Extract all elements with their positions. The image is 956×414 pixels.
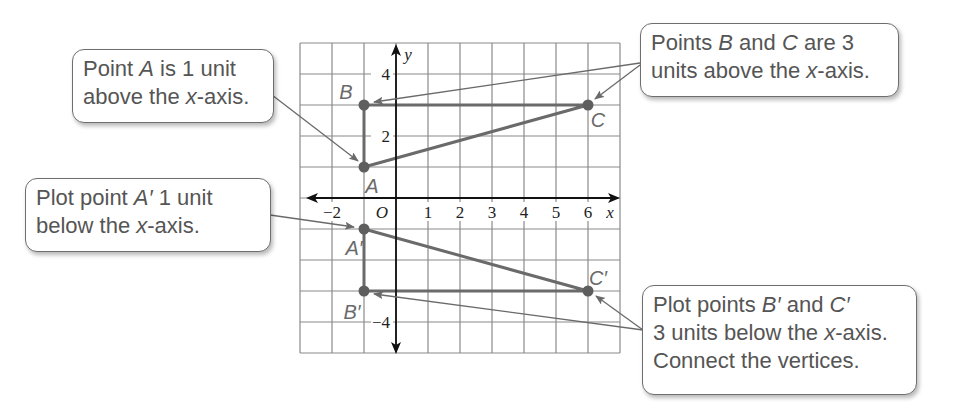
variable-a: A	[139, 56, 154, 81]
variable-x: x	[806, 58, 817, 83]
variable-b-prime: B′	[762, 292, 781, 317]
callout-point-a: Point A is 1 unit above the x-axis.	[72, 49, 274, 123]
variable-x: x	[824, 320, 835, 345]
text: below the	[36, 213, 136, 238]
text: 3 units below the	[653, 320, 824, 345]
text: above the	[83, 84, 186, 109]
variable-c-prime: C′	[830, 292, 850, 317]
point-b-prime	[359, 286, 370, 297]
x-tick-label: 2	[456, 203, 465, 222]
point-label-c: C	[591, 109, 606, 131]
text: Plot point	[36, 185, 134, 210]
text: Point	[83, 56, 139, 81]
text: -axis.	[835, 320, 888, 345]
variable-a-prime: A′	[134, 185, 153, 210]
callout-plot-b-c-prime-line1: Plot points B′ and C′	[653, 291, 906, 319]
point-a-prime	[359, 224, 370, 235]
pointer-to-b-prime	[374, 294, 643, 330]
callout-plot-b-c-prime-line2: 3 units below the x-axis.	[653, 319, 906, 347]
callout-points-b-c: Points B and C are 3 units above the x-a…	[640, 23, 899, 97]
point-label-c-prime: C′	[589, 267, 608, 289]
text: and	[781, 292, 830, 317]
callout-point-a-line2: above the x-axis.	[83, 83, 263, 111]
variable-c: C	[782, 30, 798, 55]
y-tick-label: 2	[382, 127, 391, 146]
text: are 3	[798, 30, 854, 55]
point-label-a: A	[364, 175, 378, 197]
text: -axis.	[197, 84, 250, 109]
callout-plot-b-c-prime-line3: Connect the vertices.	[653, 347, 906, 375]
origin-label: O	[376, 203, 388, 222]
text: units above the	[651, 58, 806, 83]
y-axis-label: y	[402, 45, 412, 64]
text: 1 unit	[153, 185, 213, 210]
text: Points	[651, 30, 718, 55]
pointer-to-c	[595, 65, 640, 99]
callout-point-a-line1: Point A is 1 unit	[83, 55, 263, 83]
text: -axis.	[817, 58, 870, 83]
callout-plot-b-c-prime: Plot points B′ and C′ 3 units below the …	[642, 285, 917, 395]
y-tick-label: −4	[372, 313, 391, 332]
variable-x: x	[136, 213, 147, 238]
callout-points-b-c-line2: units above the x-axis.	[651, 57, 888, 85]
y-tick-label: 4	[382, 65, 391, 84]
text: and	[733, 30, 782, 55]
callout-plot-a-prime-line2: below the x-axis.	[36, 212, 260, 240]
x-tick-label: 5	[552, 203, 561, 222]
point-label-b: B	[339, 81, 352, 103]
pointer-to-b	[374, 63, 640, 102]
callout-plot-a-prime: Plot point A′ 1 unit below the x-axis.	[25, 178, 271, 252]
x-tick-label: 1	[424, 203, 433, 222]
x-axis-label: x	[605, 203, 614, 222]
callout-points-b-c-line1: Points B and C are 3	[651, 29, 888, 57]
point-a	[359, 162, 370, 173]
text: -axis.	[147, 213, 200, 238]
text: is 1 unit	[154, 56, 236, 81]
point-label-b-prime: B′	[343, 301, 361, 323]
x-tick-label: 4	[520, 203, 529, 222]
x-tick-label: 3	[488, 203, 497, 222]
x-tick-label: 6	[584, 203, 593, 222]
point-b	[359, 100, 370, 111]
variable-x: x	[186, 84, 197, 109]
text: Plot points	[653, 292, 762, 317]
point-label-a-prime: A′	[344, 237, 363, 259]
x-tick-label: −2	[323, 203, 341, 222]
callout-plot-a-prime-line1: Plot point A′ 1 unit	[36, 184, 260, 212]
variable-b: B	[718, 30, 733, 55]
